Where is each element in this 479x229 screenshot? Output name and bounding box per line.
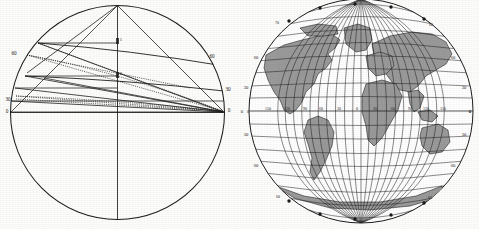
tick-mark-upper — [116, 38, 119, 44]
left-rim-label: 0 — [241, 109, 244, 114]
right-rim-label: 30 — [462, 132, 467, 137]
equator-label: 90 — [303, 106, 307, 111]
rim-tick — [389, 213, 392, 216]
dotted-line-4 — [16, 96, 222, 111]
equator-label: 150 — [440, 106, 446, 111]
right-rim-label: 30 — [462, 85, 467, 90]
oblique-line-b — [44, 78, 224, 112]
left-rim-label: 30 — [244, 132, 249, 137]
illustration-plate: 60 30 0 60 30 0 1 2 — [0, 0, 479, 229]
rim-tick — [318, 212, 321, 215]
rim-tick — [287, 199, 290, 202]
left-rim-label: 60 — [254, 55, 259, 60]
equator-label: 30 — [373, 106, 377, 111]
equator-label: 30 — [337, 106, 341, 111]
top-rim-label: 70 — [275, 20, 279, 25]
rim-tick — [422, 201, 425, 204]
equator-label: 120 — [284, 106, 290, 111]
right-rim-label: 60 — [451, 55, 456, 60]
left-rim-label: 30 — [244, 85, 249, 90]
globe-svg: 0 150 120 90 60 30 0 30 60 90 120 150 0 … — [240, 0, 479, 229]
rim-tick — [287, 19, 290, 22]
projection-diagram-svg: 60 30 0 60 30 0 1 2 — [0, 0, 240, 229]
rim-tick — [422, 17, 425, 20]
right-rim-label: 60 — [451, 163, 456, 168]
equator-label: 120 — [423, 106, 429, 111]
equator-label: 90 — [408, 106, 412, 111]
rim-tick — [318, 6, 321, 9]
rim-tick — [353, 217, 356, 220]
bottom-rim-label: 60 — [428, 195, 432, 200]
globe-figure: 0 150 120 90 60 30 0 30 60 90 120 150 0 … — [240, 0, 479, 229]
left-rim-label: 60 — [254, 163, 259, 168]
rim-tick — [353, 2, 356, 5]
top-rim-label: 60 — [429, 22, 433, 27]
label-left-60: 60 — [11, 50, 17, 56]
label-center-2: 2 — [120, 71, 123, 76]
projection-diagram-figure: 60 30 0 60 30 0 1 2 — [0, 0, 240, 229]
label-center-1: 1 — [120, 37, 123, 42]
equator-label: 0 — [356, 106, 358, 111]
label-left-0: 0 — [6, 108, 9, 114]
bottom-rim-label: 60 — [276, 194, 280, 199]
parallel-arc-mid — [25, 76, 224, 91]
label-right-0: 0 — [228, 107, 231, 113]
equator-label: 0 — [247, 109, 249, 114]
rim-tick — [389, 5, 392, 8]
equator-label: 150 — [265, 106, 271, 111]
tick-mark-lower — [116, 72, 119, 78]
label-right-60: 60 — [209, 53, 215, 59]
equator-label: 60 — [391, 106, 395, 111]
label-right-30: 30 — [225, 86, 231, 92]
equator-label: 60 — [319, 106, 323, 111]
oblique-line-a — [11, 6, 118, 113]
label-left-30: 30 — [5, 96, 11, 102]
